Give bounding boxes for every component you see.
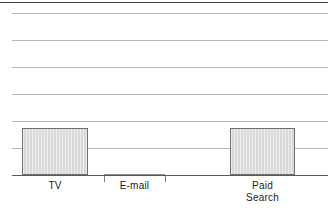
x-axis-line [12, 175, 328, 176]
gridline-4 [12, 121, 328, 122]
category-label-email: E-mail [90, 180, 180, 192]
bar-email[interactable] [104, 174, 165, 175]
bar-chart-figure: TVE-mailPaid Search [0, 0, 328, 216]
gridline-0 [12, 13, 328, 14]
gridline-3 [12, 94, 328, 95]
gridline-1 [12, 40, 328, 41]
category-label-tv: TV [10, 180, 100, 192]
category-label-paid-search: Paid Search [218, 180, 308, 204]
bar-paid-search[interactable] [230, 128, 295, 175]
bar-tv[interactable] [22, 128, 88, 175]
plot-area: TVE-mailPaid Search [0, 0, 328, 216]
gridline-2 [12, 67, 328, 68]
